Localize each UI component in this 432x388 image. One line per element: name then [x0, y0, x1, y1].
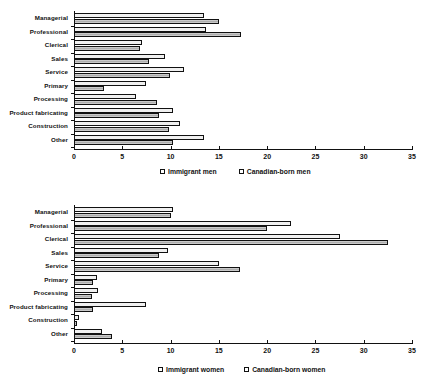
bar-immigrant: [74, 67, 184, 72]
bar-canadian-born: [74, 32, 241, 37]
x-axis-tick: [74, 340, 75, 344]
x-axis-tick: [412, 340, 413, 344]
x-axis-tick-label: 10: [159, 347, 183, 354]
category-label: Service: [45, 263, 68, 269]
x-axis-tick-label: 20: [255, 347, 279, 354]
x-axis-tick: [315, 340, 316, 344]
x-axis-tick-label: 35: [400, 153, 424, 160]
bar-canadian-born: [74, 213, 171, 218]
category-label: Construction: [28, 123, 68, 129]
x-axis-tick-label: 5: [110, 347, 134, 354]
bar-canadian-born: [74, 280, 93, 285]
x-axis-tick: [74, 146, 75, 150]
category-label: Sales: [51, 250, 68, 256]
bar-immigrant: [74, 288, 98, 293]
x-axis-tick: [219, 146, 220, 150]
legend-men: Immigrant menCanadian-born men: [160, 168, 311, 175]
x-axis-tick: [122, 340, 123, 344]
legend-swatch-icon: [158, 367, 163, 372]
legend-label: Immigrant men: [168, 168, 217, 175]
bar-immigrant: [74, 221, 291, 226]
x-axis-line: [74, 343, 412, 344]
category-label: Primary: [44, 83, 68, 89]
bar-canadian-born: [74, 73, 170, 78]
bar-immigrant: [74, 54, 165, 59]
x-axis-tick-label: 10: [159, 153, 183, 160]
bar-canadian-born: [74, 294, 92, 299]
x-axis-tick: [122, 146, 123, 150]
bar-immigrant: [74, 302, 146, 307]
x-axis-tick-label: 20: [255, 153, 279, 160]
category-label: Product fabricating: [9, 304, 68, 310]
legend-item: Immigrant women: [158, 366, 224, 373]
legend-swatch-icon: [160, 169, 165, 174]
chart-panel-men: ManagerialProfessionalClericalSalesServi…: [0, 0, 432, 194]
bar-immigrant: [74, 261, 219, 266]
x-axis-tick-label: 0: [62, 347, 86, 354]
chart-panel-women: ManagerialProfessionalClericalSalesServi…: [0, 194, 432, 388]
legend-label: Canadian-born women: [252, 366, 325, 373]
bar-immigrant: [74, 108, 173, 113]
bar-canadian-born: [74, 59, 149, 64]
category-label: Professional: [30, 223, 68, 229]
bar-immigrant: [74, 234, 340, 239]
legend-swatch-icon: [244, 367, 249, 372]
bar-immigrant: [74, 121, 180, 126]
bar-immigrant: [74, 248, 168, 253]
bar-immigrant: [74, 275, 97, 280]
bar-immigrant: [74, 40, 142, 45]
legend-item: Immigrant men: [160, 168, 217, 175]
x-axis-line: [74, 149, 412, 150]
x-axis-tick-label: 15: [207, 347, 231, 354]
x-axis-tick: [267, 340, 268, 344]
category-label: Service: [45, 69, 68, 75]
bar-immigrant: [74, 207, 173, 212]
category-label: Managerial: [35, 209, 68, 215]
bar-canadian-born: [74, 140, 173, 145]
x-axis-tick: [219, 340, 220, 344]
category-label: Sales: [51, 56, 68, 62]
legend-item: Canadian-born women: [244, 366, 325, 373]
category-label: Product fabricating: [9, 110, 68, 116]
x-axis-tick: [267, 146, 268, 150]
category-label: Clerical: [45, 236, 68, 242]
bar-canadian-born: [74, 46, 140, 51]
legend-item: Canadian-born men: [239, 168, 311, 175]
category-label: Construction: [28, 317, 68, 323]
x-axis-tick: [171, 340, 172, 344]
bar-canadian-born: [74, 226, 267, 231]
category-label: Managerial: [35, 15, 68, 21]
category-label: Professional: [30, 29, 68, 35]
x-axis-tick-label: 35: [400, 347, 424, 354]
x-axis-tick: [364, 340, 365, 344]
category-label: Primary: [44, 277, 68, 283]
bar-canadian-born: [74, 253, 159, 258]
bar-canadian-born: [74, 240, 388, 245]
y-axis-line: [74, 205, 75, 343]
legend-label: Immigrant women: [166, 366, 224, 373]
bar-canadian-born: [74, 113, 159, 118]
bar-immigrant: [74, 13, 204, 18]
legend-swatch-icon: [239, 169, 244, 174]
bar-immigrant: [74, 81, 146, 86]
legend-label: Canadian-born men: [247, 168, 311, 175]
bar-immigrant: [74, 27, 206, 32]
bar-canadian-born: [74, 334, 112, 339]
x-axis-tick-label: 30: [352, 153, 376, 160]
bar-immigrant: [74, 94, 136, 99]
x-axis-tick-label: 5: [110, 153, 134, 160]
x-axis-tick: [315, 146, 316, 150]
x-axis-tick-label: 25: [303, 153, 327, 160]
category-label: Processing: [34, 96, 68, 102]
bar-immigrant: [74, 135, 204, 140]
category-label: Other: [51, 331, 68, 337]
x-axis-tick-label: 25: [303, 347, 327, 354]
x-axis-tick-label: 0: [62, 153, 86, 160]
bar-canadian-born: [74, 100, 157, 105]
x-axis-tick: [171, 146, 172, 150]
y-axis-line: [74, 11, 75, 149]
x-axis-tick-label: 30: [352, 347, 376, 354]
bar-immigrant: [74, 315, 79, 320]
bar-canadian-born: [74, 86, 104, 91]
category-label: Clerical: [45, 42, 68, 48]
